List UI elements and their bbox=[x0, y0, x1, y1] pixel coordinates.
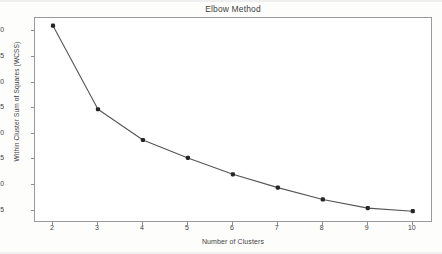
x-tick-label: 4 bbox=[130, 224, 154, 231]
x-tick-label: 5 bbox=[175, 224, 199, 231]
y-tick-label: 35 bbox=[0, 52, 4, 59]
data-point-marker bbox=[231, 172, 235, 176]
x-tick-label: 8 bbox=[310, 224, 334, 231]
y-tick-mark bbox=[31, 82, 34, 83]
y-tick-mark bbox=[31, 30, 34, 31]
y-tick-label: 40 bbox=[0, 26, 4, 33]
y-tick-label: 25 bbox=[0, 103, 4, 110]
data-point-marker bbox=[186, 156, 190, 160]
y-tick-label: 10 bbox=[0, 180, 4, 187]
y-tick-mark bbox=[31, 133, 34, 134]
x-tick-mark bbox=[52, 222, 53, 225]
data-point-marker bbox=[51, 24, 55, 28]
paper-edge-top bbox=[0, 0, 442, 2]
data-point-marker bbox=[96, 107, 100, 111]
x-tick-mark bbox=[322, 222, 323, 225]
y-tick-label: 20 bbox=[0, 129, 4, 136]
data-point-marker bbox=[141, 138, 145, 142]
data-point-marker bbox=[366, 206, 370, 210]
x-tick-label: 7 bbox=[265, 224, 289, 231]
y-tick-mark bbox=[31, 107, 34, 108]
x-tick-label: 9 bbox=[355, 224, 379, 231]
y-tick-label: 5 bbox=[0, 206, 4, 213]
x-tick-mark bbox=[367, 222, 368, 225]
plot-area bbox=[34, 17, 432, 222]
data-point-marker bbox=[321, 197, 325, 201]
y-tick-mark bbox=[31, 56, 34, 57]
data-point-marker bbox=[411, 209, 415, 213]
y-tick-mark bbox=[31, 210, 34, 211]
y-tick-mark bbox=[31, 184, 34, 185]
series-line bbox=[53, 26, 413, 212]
x-tick-label: 10 bbox=[400, 224, 424, 231]
x-tick-label: 3 bbox=[85, 224, 109, 231]
x-tick-mark bbox=[232, 222, 233, 225]
x-tick-mark bbox=[187, 222, 188, 225]
x-tick-mark bbox=[97, 222, 98, 225]
y-tick-label: 15 bbox=[0, 154, 4, 161]
x-axis-label: Number of Clusters bbox=[34, 238, 432, 245]
y-tick-mark bbox=[31, 158, 34, 159]
x-tick-label: 6 bbox=[220, 224, 244, 231]
x-tick-mark bbox=[142, 222, 143, 225]
x-tick-mark bbox=[277, 222, 278, 225]
y-tick-label: 30 bbox=[0, 78, 4, 85]
x-tick-mark bbox=[412, 222, 413, 225]
x-tick-label: 2 bbox=[40, 224, 64, 231]
plot-inner bbox=[35, 18, 431, 221]
data-point-marker bbox=[276, 186, 280, 190]
y-axis-label: Within Cluster Sum of Squares (WCSS) bbox=[13, 17, 20, 187]
chart-title: Elbow Method bbox=[34, 4, 432, 14]
chart-figure: Elbow Method Within Cluster Sum of Squar… bbox=[0, 0, 442, 254]
series-wcss bbox=[35, 18, 433, 223]
